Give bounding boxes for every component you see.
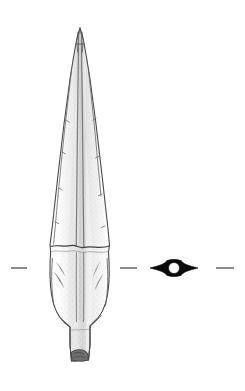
illustration-plate: socketed spearhead profile view Lenticul… [0,0,245,391]
blade-texture [40,20,125,370]
cross-section-bore [169,263,180,274]
spearhead-profile [40,20,125,370]
spearhead-drawing-canvas [0,0,245,391]
cross-section-diagram [150,259,198,276]
